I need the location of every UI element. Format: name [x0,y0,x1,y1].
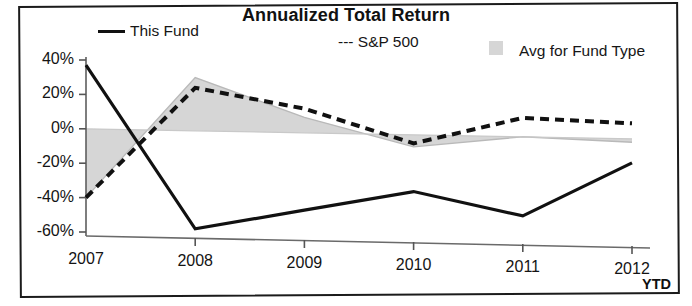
chart-tick-marks [79,60,632,254]
y-axis-tick-label: -60% [8,222,74,240]
series-sp500-line [86,88,632,198]
series-avg-fund-type-area [86,77,632,197]
x-axis-tick-label: 2011 [491,258,555,276]
series-this-fund-line [86,65,632,229]
x-axis-ytd-note: YTD [642,276,671,292]
y-axis-tick-label: 0% [8,119,74,137]
x-axis-tick-label: 2007 [54,250,118,268]
chart-axes [86,57,650,248]
x-axis-tick-label: 2008 [163,252,227,270]
y-axis-tick-label: 20% [8,84,74,102]
y-axis-tick-label: -20% [8,153,74,171]
chart-card: Annualized Total Return This Fund --- S&… [0,0,692,306]
x-axis-tick-label: 2010 [382,256,446,274]
y-axis-tick-label: 40% [8,50,74,68]
y-axis-tick-label: -40% [8,188,74,206]
x-axis-tick-label: 2009 [272,254,336,272]
